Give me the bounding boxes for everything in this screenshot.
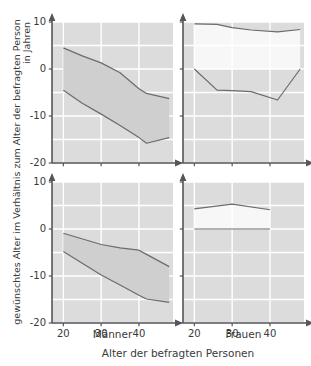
x-axis-tick-label: 20 xyxy=(188,328,201,339)
y-axis-tick-label: -10 xyxy=(30,270,46,281)
y-axis-tick-label: 0 xyxy=(40,63,46,74)
panel-bottom-left: 100-10-20203040 xyxy=(30,173,183,339)
y-axis-arrow-icon xyxy=(49,13,56,21)
y-axis-title-line1: gewünschtes Alter im Verhältnis zum Alte… xyxy=(11,19,22,324)
panel-group-label-maenner: Männer xyxy=(93,328,133,340)
x-axis-tick-label: 40 xyxy=(133,328,146,339)
y-axis-title-line2: in Jahren xyxy=(21,22,32,64)
chart-root: 100-10-20100-10-20203040203040MännerFrau… xyxy=(11,13,311,359)
panel-top-right xyxy=(180,13,311,166)
y-axis-tick-label: -20 xyxy=(30,317,46,328)
y-axis-arrow-icon xyxy=(180,173,187,181)
chart-figure: 100-10-20100-10-20203040203040MännerFrau… xyxy=(0,0,311,366)
y-axis-arrow-icon xyxy=(49,173,56,181)
y-axis-tick-label: 10 xyxy=(33,176,46,187)
y-axis-tick-label: 10 xyxy=(33,16,46,27)
y-axis-tick-label: 0 xyxy=(40,223,46,234)
x-axis-tick-label: 20 xyxy=(57,328,70,339)
y-axis-arrow-icon xyxy=(180,13,187,21)
x-axis-arrow-icon xyxy=(306,320,311,327)
y-axis-tick-label: -20 xyxy=(30,157,46,168)
x-axis-arrow-icon xyxy=(306,160,311,167)
chart-canvas: 100-10-20100-10-20203040203040MännerFrau… xyxy=(0,0,311,366)
panel-bottom-right: 203040 xyxy=(180,173,311,339)
x-axis-title: Alter der befragten Personen xyxy=(102,347,254,359)
panel-group-label-frauen: Frauen xyxy=(226,328,262,340)
panel-top-left: 100-10-20 xyxy=(30,13,183,168)
x-axis-tick-label: 40 xyxy=(264,328,277,339)
y-axis-tick-label: -10 xyxy=(30,110,46,121)
